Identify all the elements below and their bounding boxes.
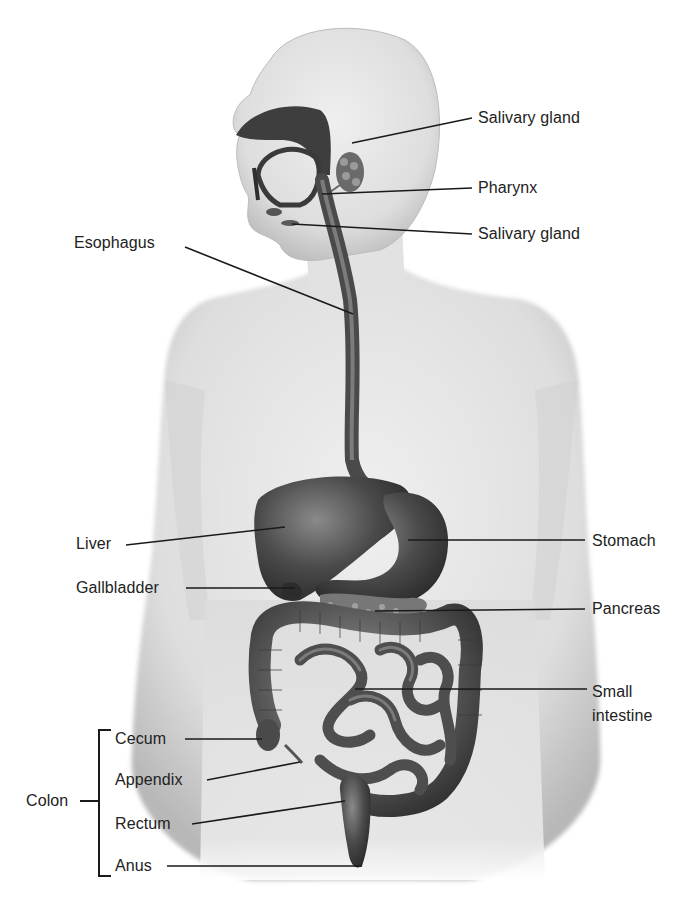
label-colon: Colon bbox=[26, 792, 68, 810]
label-liver: Liver bbox=[76, 535, 111, 553]
anatomy-illustration bbox=[0, 0, 698, 904]
label-cecum: Cecum bbox=[115, 730, 166, 748]
label-anus: Anus bbox=[115, 857, 152, 875]
label-gallbladder: Gallbladder bbox=[76, 579, 159, 597]
digestive-system-figure: Salivary gland Pharynx Salivary gland Es… bbox=[0, 0, 698, 904]
label-small-intestine-line2: intestine bbox=[592, 707, 653, 725]
label-pancreas: Pancreas bbox=[592, 600, 660, 618]
label-stomach: Stomach bbox=[592, 532, 656, 550]
label-rectum: Rectum bbox=[115, 815, 171, 833]
body-silhouette bbox=[132, 28, 600, 880]
label-salivary-gland-top: Salivary gland bbox=[478, 109, 580, 127]
label-esophagus: Esophagus bbox=[74, 234, 155, 252]
cecum bbox=[256, 719, 280, 751]
label-small-intestine-line1: Small bbox=[592, 683, 633, 701]
label-pharynx: Pharynx bbox=[478, 179, 537, 197]
label-salivary-gland-bottom: Salivary gland bbox=[478, 225, 580, 243]
label-appendix: Appendix bbox=[115, 771, 183, 789]
colon-bracket bbox=[99, 730, 111, 876]
